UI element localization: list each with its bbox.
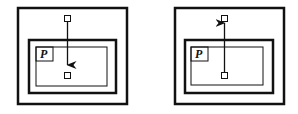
- left-diagram: P: [18, 8, 127, 104]
- p-label: P: [40, 47, 48, 61]
- source-node: [65, 16, 71, 22]
- source-node: [222, 73, 228, 79]
- p-label: P: [195, 47, 203, 61]
- target-node: [222, 16, 228, 22]
- right-diagram: P: [175, 8, 284, 104]
- diagram-canvas: P P: [0, 0, 298, 114]
- outer-box: [18, 8, 127, 104]
- target-node: [65, 73, 71, 79]
